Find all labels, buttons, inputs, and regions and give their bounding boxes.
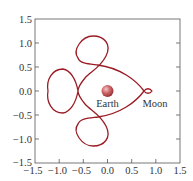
y-tick-label: 0.0 [19, 86, 32, 97]
moon-label: Moon [142, 98, 168, 109]
y-tick-labels: 1.5 1.0 0.5 0.0 −0.5 −1.0 −1.5 [13, 14, 32, 168]
y-tick-label: −1.0 [13, 134, 32, 145]
x-tick-label: 0.5 [125, 165, 138, 176]
x-tick-label: −0.5 [72, 165, 91, 176]
y-tick-label: 1.0 [19, 38, 32, 49]
x-tick-label: 1.0 [149, 165, 162, 176]
y-tick-label: 1.5 [19, 14, 32, 25]
earth-marker [102, 85, 114, 97]
x-tick-label: 0.0 [101, 165, 114, 176]
x-tick-label: −1.5 [23, 165, 42, 176]
x-tick-label: 1.5 [173, 165, 186, 176]
y-tick-label: 0.5 [19, 62, 32, 73]
y-tick-label: −0.5 [13, 110, 32, 121]
orbit-chart: 1.5 1.0 0.5 0.0 −0.5 −1.0 −1.5 −1.5 −1.0… [0, 0, 193, 181]
earth-label: Earth [96, 98, 119, 109]
trajectory-curve [48, 36, 152, 146]
x-tick-labels: −1.5 −1.0 −0.5 0.0 0.5 1.0 1.5 [23, 165, 186, 176]
x-tick-label: −1.0 [48, 165, 67, 176]
x-axis-ticks [59, 159, 156, 163]
